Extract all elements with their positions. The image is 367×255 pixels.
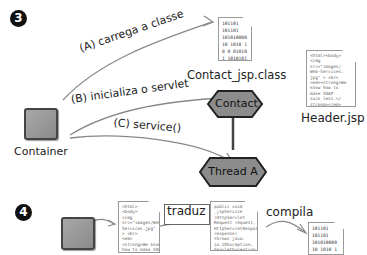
class-file-label: Contact_jsp.class [187,68,286,82]
container-icon [24,108,58,140]
thread-a-node: Thread A [205,165,261,178]
step-4-badge: 4 [15,204,32,221]
compile-label: compila [266,205,313,219]
header-jsp-file-icon: <html><body> <img src="images/ Web-Servi… [306,50,356,107]
container-label: Container [14,145,68,158]
translate-label: traduz [167,204,206,218]
compiled-class-file-icon: 101101 101101 101010000 10 1010 1 [308,222,344,255]
java-source-file-icon: public void _jspService (HttpServlet Req… [210,201,258,251]
class-file-icon: 101101 101101 101010000 10 1010 1 0 0 01… [218,17,252,61]
contact-servlet-node: Contact [215,97,255,110]
jsp-source-file-icon: <html> <body> <img src="images/Web- Serv… [118,201,160,253]
container-icon-step4 [61,217,95,250]
header-jsp-label: Header.jsp [301,111,365,125]
